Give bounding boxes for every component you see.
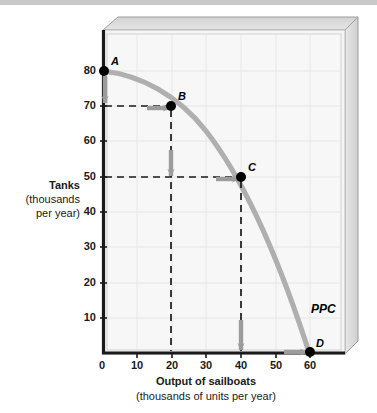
data-point-a[interactable] [99, 66, 109, 76]
data-point-d[interactable] [305, 347, 315, 357]
y-tick-80: 80 [72, 64, 96, 76]
x-tick-50: 50 [264, 359, 288, 371]
x-axis-title: Output of sailboats (thousands of units … [96, 374, 316, 404]
point-label-b: B [178, 90, 186, 102]
y-tick-30: 30 [72, 240, 96, 252]
point-label-c: C [248, 161, 256, 173]
box-top-face [103, 17, 358, 30]
x-axis-title-line2: (thousands of units per year) [96, 389, 316, 404]
point-label-d: D [316, 337, 324, 349]
x-tick-10: 10 [125, 359, 149, 371]
x-tick-40: 40 [229, 359, 253, 371]
y-tick-70: 70 [72, 99, 96, 111]
ppc-chart-figure: A B C D PPC 80 70 60 50 40 30 20 10 0 10… [0, 0, 377, 413]
y-axis-title: Tanks (thousands per year) [2, 178, 80, 220]
x-tick-60: 60 [298, 359, 322, 371]
y-axis-title-line2: (thousands [2, 192, 80, 206]
point-label-a: A [111, 55, 119, 67]
ppc-curve-label: PPC [311, 302, 336, 316]
box-right-face [345, 17, 358, 354]
x-tick-0: 0 [90, 359, 114, 371]
data-point-c[interactable] [236, 172, 246, 182]
y-tick-20: 20 [72, 276, 96, 288]
y-axis-title-line1: Tanks [2, 178, 80, 192]
y-tick-10: 10 [72, 311, 96, 323]
x-tick-30: 30 [194, 359, 218, 371]
x-axis-title-line1: Output of sailboats [96, 374, 316, 389]
data-point-b[interactable] [166, 101, 176, 111]
x-tick-20: 20 [160, 359, 184, 371]
y-tick-60: 60 [72, 134, 96, 146]
y-axis-title-line3: per year) [2, 206, 80, 220]
